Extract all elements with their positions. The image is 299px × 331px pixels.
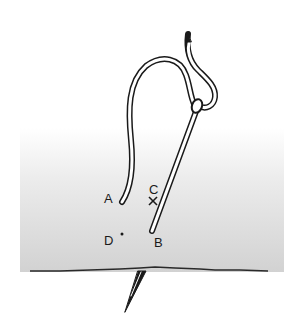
label-b: B [154,235,163,250]
label-a: A [104,191,113,206]
needle-tip [125,271,146,312]
label-c: C [149,182,158,197]
stitch-diagram: A C D B [0,0,299,331]
marker-d-dot [121,233,124,236]
label-d: D [104,233,113,248]
